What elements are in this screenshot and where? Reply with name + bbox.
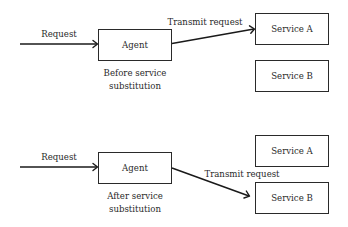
before-service-b-node: Service B — [256, 61, 329, 92]
before-service-b-label: Service B — [271, 71, 313, 81]
after-agent-label: Agent — [121, 163, 148, 173]
after-request-label: Request — [41, 152, 77, 162]
after-caption-line2: substitution — [109, 204, 161, 214]
after-service-a-node: Service A — [256, 136, 329, 167]
after-substitution-panel: Request Agent After service substitution… — [20, 136, 329, 215]
before-agent-node: Agent — [99, 30, 172, 61]
before-request-label: Request — [41, 29, 77, 39]
before-service-a-label: Service A — [271, 24, 313, 34]
after-service-b-node: Service B — [256, 183, 329, 214]
after-caption-line1: After service — [106, 191, 163, 201]
before-substitution-panel: Request Agent Before service substitutio… — [20, 14, 329, 92]
before-caption-line2: substitution — [109, 81, 161, 91]
after-request-arrow — [20, 164, 98, 171]
before-caption-line1: Before service — [104, 68, 167, 78]
after-service-b-label: Service B — [271, 193, 313, 203]
before-request-arrow — [20, 41, 98, 48]
before-agent-label: Agent — [121, 40, 148, 50]
after-service-a-label: Service A — [271, 146, 313, 156]
before-service-a-node: Service A — [256, 14, 329, 45]
service-substitution-diagram: Request Agent Before service substitutio… — [0, 0, 348, 227]
before-transmit-label: Transmit request — [167, 17, 243, 27]
after-agent-node: Agent — [99, 153, 172, 184]
after-transmit-label: Transmit request — [204, 169, 280, 179]
before-transmit-arrow — [172, 26, 255, 44]
